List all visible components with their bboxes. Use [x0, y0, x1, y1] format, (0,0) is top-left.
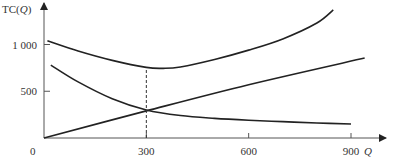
series-group — [44, 10, 365, 138]
x-tick-label: 900 — [343, 145, 360, 157]
y-axis-label: TC(Q) — [2, 3, 32, 16]
tc-chart: 3006009005001 000 TC(Q) Q 0 — [0, 0, 397, 162]
x-tick-label: 300 — [138, 145, 155, 157]
x-axis-label: Q — [364, 145, 372, 157]
series-line-0 — [47, 10, 333, 69]
series-line-1 — [44, 58, 365, 138]
x-tick-label: 600 — [240, 145, 257, 157]
series-line-2 — [51, 65, 351, 124]
y-tick-label: 1 000 — [12, 39, 37, 51]
y-tick-label: 500 — [21, 85, 38, 97]
axis-ticks: 3006009005001 000 — [12, 39, 360, 158]
origin-label: 0 — [30, 145, 36, 157]
